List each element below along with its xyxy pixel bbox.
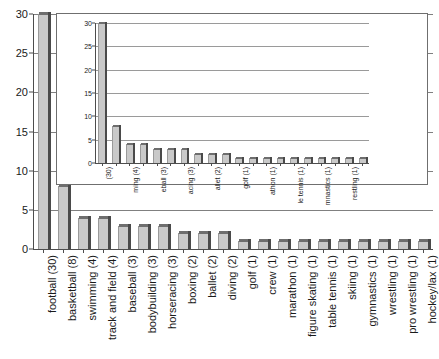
bar-slot bbox=[150, 23, 164, 163]
bar bbox=[158, 226, 168, 250]
bar-slot bbox=[246, 23, 260, 163]
x-tick-label: acing (3) bbox=[187, 167, 194, 194]
bar-slot bbox=[218, 23, 232, 163]
x-tick-mark bbox=[163, 249, 164, 253]
bar-slot bbox=[95, 23, 109, 163]
x-tick-label: le tennis (1) bbox=[297, 167, 304, 204]
bar bbox=[208, 154, 215, 163]
x-tick-mark bbox=[211, 163, 212, 166]
bar bbox=[153, 149, 160, 163]
x-tick-label: athon (1) bbox=[269, 167, 276, 195]
x-tick-mark bbox=[102, 163, 103, 166]
bar-slot bbox=[273, 23, 287, 163]
bar bbox=[358, 241, 368, 249]
bar bbox=[278, 241, 288, 249]
x-tick-mark bbox=[239, 163, 240, 166]
x-tick-mark bbox=[348, 163, 349, 166]
x-tick-mark bbox=[263, 249, 264, 253]
x-tick-mark bbox=[183, 249, 184, 253]
bar bbox=[194, 154, 201, 163]
y-tick-label: 30 bbox=[16, 9, 28, 20]
x-tick-label: pro wrestling (1) bbox=[407, 255, 418, 334]
x-tick-label: ming (4) bbox=[132, 167, 139, 193]
y-tick-label: 10 bbox=[84, 113, 92, 120]
bar bbox=[238, 241, 248, 249]
x-tick-mark bbox=[294, 163, 295, 166]
x-tick-label: football (30) bbox=[47, 255, 58, 313]
x-tick-label: golf (1) bbox=[247, 255, 258, 289]
x-tick-mark bbox=[116, 163, 117, 166]
x-tick-mark bbox=[223, 249, 224, 253]
x-tick-mark bbox=[129, 163, 130, 166]
bar bbox=[167, 149, 174, 163]
x-tick-label: wrestling (1) bbox=[387, 255, 398, 315]
inset-bars bbox=[95, 23, 369, 163]
x-tick-mark bbox=[203, 249, 204, 253]
y-tick-label: 15 bbox=[16, 126, 28, 137]
bar-chart-figure: 051015202530 football (30)basketball (8)… bbox=[0, 0, 439, 359]
bar bbox=[298, 241, 308, 249]
bar-slot bbox=[33, 14, 53, 249]
bar-slot bbox=[301, 23, 315, 163]
bar-slot bbox=[232, 23, 246, 163]
bar bbox=[318, 241, 328, 249]
inset-chart-panel: 051015202530 (30)ming (4)eball (3)acing … bbox=[56, 13, 428, 185]
x-tick-mark bbox=[123, 249, 124, 253]
x-tick-label: track and field (4) bbox=[107, 255, 118, 340]
bar bbox=[78, 218, 88, 249]
x-tick-label: swimming (4) bbox=[87, 255, 98, 320]
x-tick-mark bbox=[283, 249, 284, 253]
x-tick-mark bbox=[170, 163, 171, 166]
bar-slot bbox=[177, 23, 191, 163]
bar bbox=[138, 226, 148, 250]
x-tick-mark bbox=[280, 163, 281, 166]
bar bbox=[181, 149, 188, 163]
bar-slot bbox=[259, 23, 273, 163]
bar bbox=[140, 144, 147, 163]
x-tick-mark bbox=[43, 249, 44, 253]
y-tick-label: 0 bbox=[88, 160, 92, 167]
x-tick-label: skiing (1) bbox=[347, 255, 358, 300]
x-tick-label: gymnastics (1) bbox=[367, 255, 378, 327]
x-tick-label: allet (2) bbox=[214, 167, 221, 190]
x-tick-label: boxing (2) bbox=[187, 255, 198, 304]
bar bbox=[126, 144, 133, 163]
x-tick-mark bbox=[362, 163, 363, 166]
y-tick-label: 25 bbox=[84, 43, 92, 50]
x-tick-label: basketball (8) bbox=[67, 255, 78, 321]
x-tick-label: hockey/lax (1) bbox=[427, 255, 438, 323]
bar-slot bbox=[136, 23, 150, 163]
gridline-0 bbox=[33, 249, 433, 250]
y-tick-label: 20 bbox=[16, 87, 28, 98]
x-tick-label: golf (1) bbox=[242, 167, 249, 189]
x-tick-label: baseball (3) bbox=[127, 255, 138, 312]
bar bbox=[178, 233, 188, 249]
x-tick-mark bbox=[363, 249, 364, 253]
y-tick-label: 0 bbox=[22, 244, 28, 255]
x-tick-label: marathon (1) bbox=[287, 255, 298, 318]
bar bbox=[218, 233, 228, 249]
bar-slot bbox=[109, 23, 123, 163]
bar-slot bbox=[314, 23, 328, 163]
bar-slot bbox=[355, 23, 369, 163]
bar-slot bbox=[205, 23, 219, 163]
x-tick-label: table tennis (1) bbox=[327, 255, 338, 328]
x-tick-label: bodybuilding (3) bbox=[147, 255, 158, 333]
bar bbox=[58, 186, 68, 249]
bar bbox=[98, 218, 108, 249]
x-tick-mark bbox=[184, 163, 185, 166]
bar-slot bbox=[342, 23, 356, 163]
inset-plot-area: 051015202530 (30)ming (4)eball (3)acing … bbox=[95, 23, 369, 163]
x-tick-mark bbox=[243, 249, 244, 253]
x-tick-mark bbox=[303, 249, 304, 253]
bar bbox=[338, 241, 348, 249]
x-tick-label: crew (1) bbox=[267, 255, 278, 295]
x-tick-mark bbox=[143, 249, 144, 253]
y-tick-label: 20 bbox=[84, 66, 92, 73]
bar-slot bbox=[122, 23, 136, 163]
bar bbox=[112, 126, 119, 163]
bar-slot bbox=[164, 23, 178, 163]
bar bbox=[198, 233, 208, 249]
x-tick-label: ballet (2) bbox=[207, 255, 218, 298]
x-tick-label: figure skating (1) bbox=[307, 255, 318, 337]
